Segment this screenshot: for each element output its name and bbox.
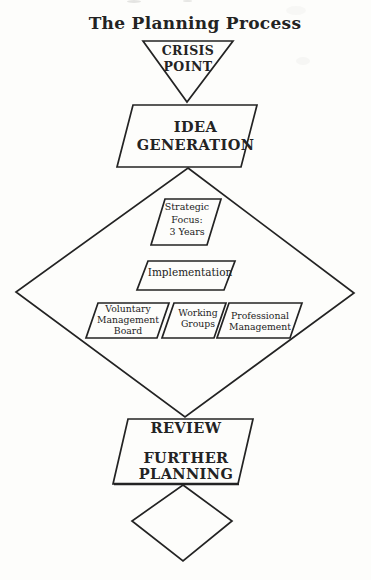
idea-generation-label: IDEA GENERATION xyxy=(123,118,268,153)
strategic-focus-label: Strategic Focus: 3 Years xyxy=(146,201,228,239)
end-diamond-shape xyxy=(132,485,232,561)
diagram-shapes xyxy=(0,0,371,580)
crisis-point-label: CRISIS POINT xyxy=(138,43,238,74)
voluntary-management-board-label: Voluntary Management Board xyxy=(88,304,168,336)
strategic-focus-line2: Focus: xyxy=(146,214,228,227)
idea-generation-line2: GENERATION xyxy=(123,136,268,154)
strategic-focus-line1: Strategic xyxy=(146,201,228,214)
implementation-label: Implementation xyxy=(130,266,250,278)
crisis-point-line2: POINT xyxy=(138,59,238,75)
planning-process-diagram: The Planning Process CRISIS POINT IDEA G… xyxy=(0,0,371,580)
professional-line2: Management xyxy=(217,322,303,333)
strategic-focus-line3: 3 Years xyxy=(146,226,228,239)
idea-generation-line1: IDEA xyxy=(123,118,268,136)
further-label: FURTHER xyxy=(118,449,254,466)
voluntary-line3: Board xyxy=(88,326,168,337)
planning-label: PLANNING xyxy=(118,465,254,482)
crisis-point-line1: CRISIS xyxy=(138,43,238,59)
page-title: The Planning Process xyxy=(55,13,335,33)
professional-management-label: Professional Management xyxy=(217,311,303,333)
review-label: REVIEW xyxy=(118,419,254,436)
voluntary-line2: Management xyxy=(88,315,168,326)
